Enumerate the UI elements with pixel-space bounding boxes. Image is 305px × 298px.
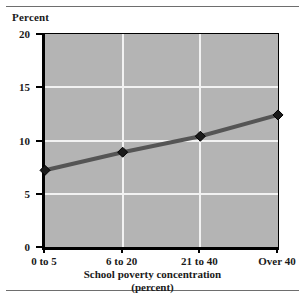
y-tick-label: 15 [19, 81, 30, 93]
x-axis-title-line1: School poverty concentration [84, 268, 221, 280]
x-tick-mark [121, 247, 123, 253]
figure-container: Percent 05101520 0 to 56 to 2021 to 40Ov… [0, 0, 305, 298]
data-point-marker [195, 131, 205, 141]
y-tick-mark [36, 140, 43, 142]
data-point-marker [273, 110, 283, 120]
x-tick-label: Over 40 [258, 255, 295, 267]
y-tick-label: 20 [19, 28, 30, 40]
x-tick-label: 6 to 20 [106, 255, 137, 267]
data-point-marker [118, 147, 128, 157]
x-tick-label: 21 to 40 [181, 255, 218, 267]
y-tick-label: 5 [25, 188, 31, 200]
y-tick-mark [36, 33, 43, 35]
x-tick-mark [43, 247, 45, 253]
series-line-chart [45, 34, 278, 247]
x-axis-title: School poverty concentration (percent) [0, 268, 305, 293]
y-axis-tick-labels: 05101520 [0, 33, 30, 247]
plot-area [42, 33, 279, 250]
y-tick-label: 10 [19, 135, 30, 147]
x-tick-mark [198, 247, 200, 253]
y-tick-mark [36, 193, 43, 195]
top-rule [6, 6, 299, 7]
y-tick-label: 0 [25, 241, 31, 253]
plot-inner [45, 34, 278, 247]
y-axis-title: Percent [12, 11, 49, 23]
y-tick-mark [36, 86, 43, 88]
x-axis-title-line2: (percent) [0, 281, 305, 294]
series-line [45, 115, 278, 170]
x-tick-mark [276, 247, 278, 253]
x-tick-label: 0 to 5 [31, 255, 57, 267]
